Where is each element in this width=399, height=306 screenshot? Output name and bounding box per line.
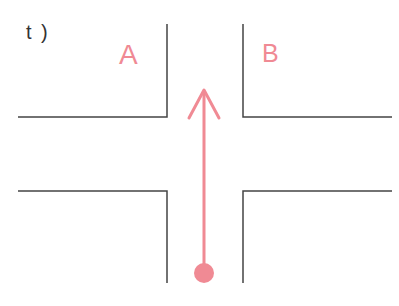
road-edge-bottom-left [18,191,167,283]
question-label: t ) [26,22,50,42]
road-edge-bottom-right [243,191,392,283]
arrow-up-icon [189,90,219,283]
road-lines [0,0,399,306]
zone-label-b: B [262,41,279,66]
road-edge-top-right [243,24,392,117]
start-dot-icon [194,263,214,283]
zone-label-a: A [119,41,138,69]
